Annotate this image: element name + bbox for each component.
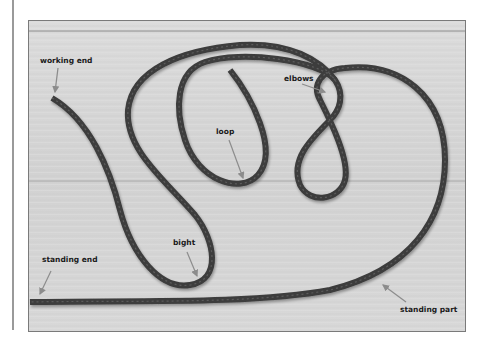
label-loop: loop [216, 127, 235, 136]
margin-rule [12, 0, 14, 330]
label-working-end: working end [40, 56, 92, 65]
label-elbows: elbows [284, 74, 314, 83]
label-standing-end: standing end [42, 255, 98, 264]
rope-diagram-photo: working end loop elbows bight standing e… [28, 20, 466, 332]
label-standing-part: standing part [400, 305, 458, 314]
label-bight: bight [173, 238, 196, 247]
